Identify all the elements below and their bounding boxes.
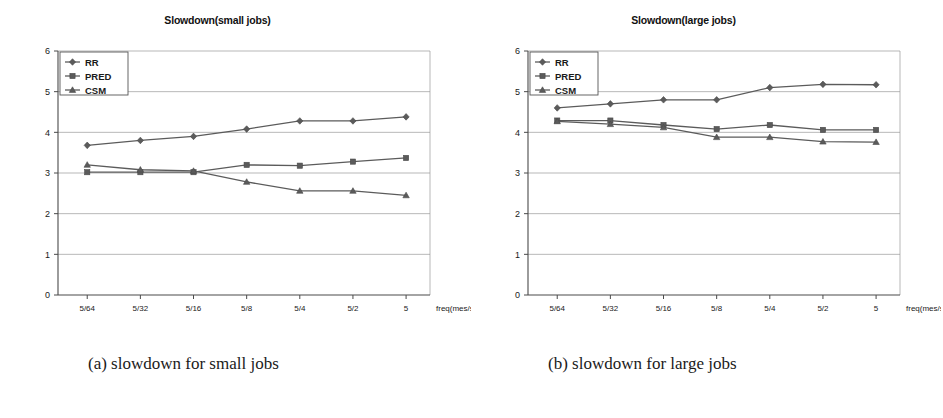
x-tick-label: 5/16 <box>656 304 672 313</box>
legend-square-marker <box>540 73 545 78</box>
legend-label-rr: RR <box>85 57 99 68</box>
y-tick-label: 2 <box>45 209 50 219</box>
y-tick-label: 1 <box>45 250 50 260</box>
square-marker-pred <box>297 163 302 168</box>
plot-area-small-jobs: 01234565/645/325/165/85/45/25freq(mes/s)… <box>0 0 471 340</box>
x-tick-label: 5/16 <box>186 304 202 313</box>
x-axis-caption: freq(mes/s) <box>906 304 941 313</box>
x-tick-label: 5/64 <box>549 304 565 313</box>
diamond-marker-rr <box>84 142 90 149</box>
x-tick-label: 5/64 <box>79 304 95 313</box>
diamond-marker-rr <box>350 118 356 125</box>
legend-label-csm: CSM <box>555 85 576 96</box>
legend-label-pred: PRED <box>85 71 112 82</box>
x-axis-caption: freq(mes/s) <box>436 304 471 313</box>
diamond-marker-rr <box>190 133 196 140</box>
y-tick-label: 2 <box>515 209 520 219</box>
y-tick-label: 0 <box>515 290 520 300</box>
diamond-marker-rr <box>820 81 826 88</box>
square-marker-pred <box>85 170 90 175</box>
diamond-marker-rr <box>873 81 879 88</box>
x-tick-label: 5/4 <box>294 304 306 313</box>
chart-panel-large-jobs: Slowdown(large jobs) 01234565/645/325/16… <box>470 0 941 340</box>
diamond-marker-rr <box>607 101 613 108</box>
y-tick-label: 0 <box>45 290 50 300</box>
x-tick-label: 5/32 <box>603 304 619 313</box>
y-tick-label: 5 <box>45 87 50 97</box>
square-marker-pred <box>403 155 408 160</box>
legend-square-marker <box>70 73 75 78</box>
x-tick-label: 5/32 <box>133 304 149 313</box>
x-tick-label: 5/2 <box>347 304 359 313</box>
diamond-marker-rr <box>767 84 773 91</box>
y-tick-label: 4 <box>45 128 50 138</box>
diamond-marker-rr <box>714 97 720 104</box>
chart-panel-small-jobs: Slowdown(small jobs) 01234565/645/325/16… <box>0 0 471 340</box>
y-tick-label: 6 <box>515 46 520 56</box>
x-tick-label: 5/4 <box>764 304 776 313</box>
square-marker-pred <box>767 122 772 127</box>
x-tick-label: 5/8 <box>241 304 253 313</box>
y-tick-label: 4 <box>515 128 520 138</box>
captions-row: (a) slowdown for small jobs (b) slowdown… <box>0 340 943 418</box>
legend-label-rr: RR <box>555 57 569 68</box>
y-tick-label: 6 <box>45 46 50 56</box>
y-tick-label: 3 <box>45 168 50 178</box>
plot-area-large-jobs: 01234565/645/325/165/85/45/25freq(mes/s)… <box>470 0 941 340</box>
figure-caption-b: (b) slowdown for large jobs <box>548 354 737 374</box>
diamond-marker-rr <box>297 118 303 125</box>
square-marker-pred <box>350 159 355 164</box>
y-tick-label: 1 <box>515 250 520 260</box>
x-tick-label: 5/2 <box>817 304 829 313</box>
legend-label-pred: PRED <box>555 71 582 82</box>
diamond-marker-rr <box>137 137 143 144</box>
diamond-marker-rr <box>554 105 560 112</box>
x-tick-label: 5/8 <box>711 304 723 313</box>
y-tick-label: 5 <box>515 87 520 97</box>
square-marker-pred <box>244 162 249 167</box>
legend-label-csm: CSM <box>85 85 106 96</box>
charts-row: Slowdown(small jobs) 01234565/645/325/16… <box>0 0 943 340</box>
diamond-marker-rr <box>403 114 409 121</box>
diamond-marker-rr <box>244 126 250 133</box>
y-tick-label: 3 <box>515 168 520 178</box>
figure-caption-a: (a) slowdown for small jobs <box>88 354 279 374</box>
diamond-marker-rr <box>660 97 666 104</box>
square-marker-pred <box>873 127 878 132</box>
square-marker-pred <box>820 127 825 132</box>
figure-container: Slowdown(small jobs) 01234565/645/325/16… <box>0 0 943 418</box>
x-tick-label: 5 <box>404 304 409 313</box>
square-marker-pred <box>714 126 719 131</box>
x-tick-label: 5 <box>874 304 879 313</box>
